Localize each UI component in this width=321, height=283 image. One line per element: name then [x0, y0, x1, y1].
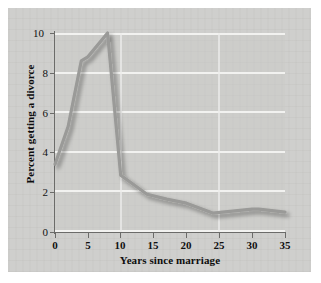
series-layer	[0, 0, 321, 283]
data-line-percent-getting-a-divorce	[55, 33, 285, 213]
figure-container: 0 2 4 6 8 10 0 5 10 15 20 25 30 35 Years…	[0, 0, 321, 283]
